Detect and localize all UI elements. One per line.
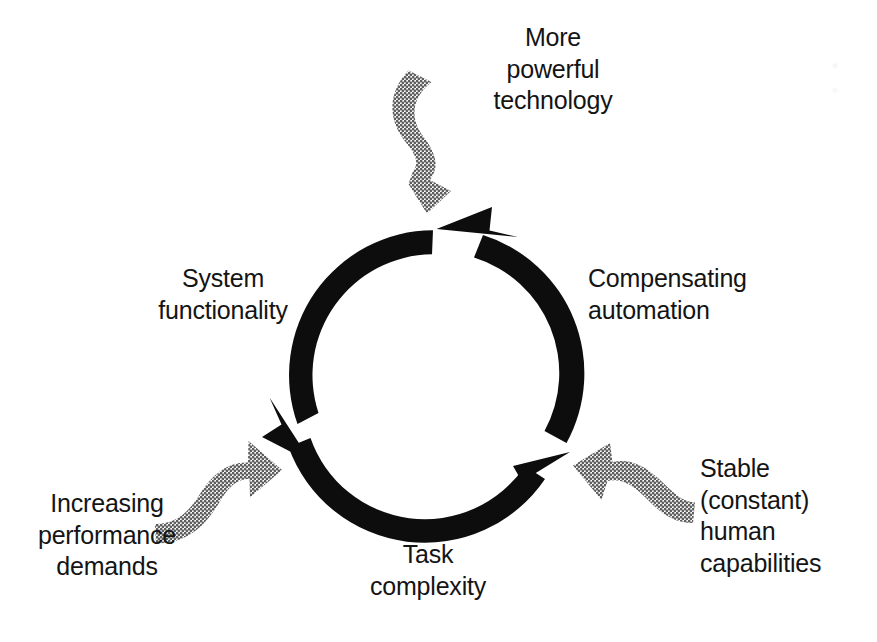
feeder-arrow-stable-human-capabilities [573, 443, 695, 523]
label-increasing-performance-demands: Increasing performance demands [18, 488, 196, 583]
label-task-complexity: Task complexity [338, 539, 518, 602]
scan-artifact [824, 56, 846, 96]
feeder-arrow-more-powerful-technology [392, 71, 451, 214]
cycle-segment-compensating-automation [437, 207, 585, 443]
cycle-segment-task-complexity [289, 438, 571, 543]
label-more-powerful-technology: More powerful technology [448, 22, 658, 117]
label-system-functionality: System functionality [130, 263, 316, 326]
cycle-ring [262, 207, 584, 543]
cycle-diagram: More powerful technology System function… [0, 0, 877, 642]
label-stable-human-capabilities: Stable (constant) human capabilities [700, 453, 876, 579]
label-compensating-automation: Compensating automation [588, 263, 814, 326]
